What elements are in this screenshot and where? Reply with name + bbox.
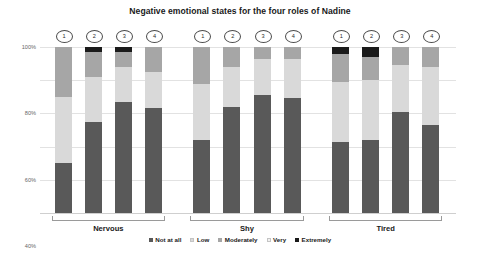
bar-segment-low — [193, 84, 210, 140]
bar-segment-not-at-all — [145, 108, 162, 213]
y-axis-tick-label: 60% — [25, 177, 36, 183]
bar-segment-low — [145, 72, 162, 109]
bar-nervous-1 — [55, 47, 72, 213]
bar-segment-low — [223, 67, 240, 107]
bar-tired-2 — [362, 47, 379, 213]
bar-shy-3 — [254, 47, 271, 213]
bar-segment-moderately — [284, 47, 301, 59]
legend-item-very[interactable]: Very — [267, 236, 287, 243]
legend-swatch-icon — [267, 238, 271, 242]
chart-legend: Not at allLowModeratelyVeryExtremely — [0, 236, 480, 243]
plot-area: 0%20%40%60%80%100% — [40, 47, 456, 213]
legend-label: Moderately — [225, 236, 258, 243]
role-badge-1: 1 — [56, 30, 73, 43]
bar-segment-low — [115, 67, 132, 102]
bar-segment-low — [332, 82, 349, 142]
role-badge-2: 2 — [224, 30, 241, 43]
bar-segment-not-at-all — [362, 140, 379, 213]
bar-segment-moderately — [145, 47, 162, 72]
bar-tired-4 — [422, 47, 439, 213]
bar-segment-not-at-all — [284, 98, 301, 213]
legend-label: Extremely — [302, 236, 332, 243]
group-label-shy: Shy — [190, 224, 304, 233]
bar-segment-not-at-all — [193, 140, 210, 213]
role-badge-3: 3 — [116, 30, 133, 43]
role-badge-1: 1 — [194, 30, 211, 43]
chart-title: Negative emotional states for the four r… — [0, 6, 480, 16]
group-label-tired: Tired — [329, 224, 443, 233]
bar-segment-not-at-all — [254, 95, 271, 213]
bar-nervous-4 — [145, 47, 162, 213]
legend-item-moderately[interactable]: Moderately — [218, 236, 257, 243]
bar-shy-4 — [284, 47, 301, 213]
legend-item-extremely[interactable]: Extremely — [295, 236, 331, 243]
role-badge-2: 2 — [363, 30, 380, 43]
bar-tired-1 — [332, 47, 349, 213]
bar-segment-not-at-all — [332, 142, 349, 213]
gridline-0: 0% — [40, 213, 456, 214]
legend-label: Not at all — [155, 236, 181, 243]
group-bracket-tired — [329, 216, 443, 221]
bar-nervous-2 — [85, 47, 102, 213]
bar-segment-low — [392, 65, 409, 111]
bar-segment-moderately — [223, 47, 240, 67]
bar-shy-1 — [193, 47, 210, 213]
bar-nervous-3 — [115, 47, 132, 213]
bar-segment-extremely — [85, 47, 102, 52]
legend-label: Low — [197, 236, 209, 243]
legend-label: Very — [273, 236, 286, 243]
bar-segment-not-at-all — [422, 125, 439, 213]
y-axis-tick-label: 80% — [25, 110, 36, 116]
legend-swatch-icon — [149, 238, 153, 242]
bar-shy-2 — [223, 47, 240, 213]
bar-segment-moderately — [332, 54, 349, 82]
legend-swatch-icon — [190, 238, 194, 242]
role-badge-1: 1 — [333, 30, 350, 43]
bar-segment-low — [422, 67, 439, 125]
bar-segment-not-at-all — [223, 107, 240, 213]
bar-segment-not-at-all — [115, 102, 132, 213]
bar-segment-moderately — [254, 47, 271, 59]
bar-segment-not-at-all — [392, 112, 409, 213]
role-badge-4: 4 — [285, 30, 302, 43]
bar-segment-not-at-all — [85, 122, 102, 213]
bar-segment-moderately — [193, 47, 210, 84]
bar-segment-moderately — [55, 47, 72, 97]
bar-segment-extremely — [115, 47, 132, 52]
bar-segment-low — [362, 80, 379, 140]
legend-swatch-icon — [218, 238, 222, 242]
group-label-nervous: Nervous — [52, 224, 166, 233]
legend-swatch-icon — [295, 238, 299, 242]
group-bracket-nervous — [52, 216, 166, 221]
bar-segment-moderately — [422, 47, 439, 67]
role-badge-4: 4 — [423, 30, 440, 43]
y-axis-tick-label: 100% — [22, 44, 36, 50]
bar-segment-low — [284, 59, 301, 99]
bar-segment-low — [254, 59, 271, 96]
legend-item-low[interactable]: Low — [190, 236, 209, 243]
bar-segment-moderately — [115, 52, 132, 67]
bar-segment-low — [55, 97, 72, 163]
role-badge-3: 3 — [255, 30, 272, 43]
group-bracket-shy — [190, 216, 304, 221]
bar-segment-moderately — [85, 52, 102, 77]
role-badge-4: 4 — [146, 30, 163, 43]
bar-tired-3 — [392, 47, 409, 213]
bar-segment-low — [85, 77, 102, 122]
stacked-bar-chart: Negative emotional states for the four r… — [0, 0, 480, 265]
y-axis-tick-label: 40% — [25, 243, 36, 249]
bars-layer — [40, 47, 456, 213]
bar-segment-moderately — [392, 47, 409, 65]
legend-item-not-at-all[interactable]: Not at all — [149, 236, 182, 243]
role-badge-2: 2 — [86, 30, 103, 43]
role-badge-3: 3 — [393, 30, 410, 43]
bar-segment-extremely — [332, 47, 349, 54]
bar-segment-not-at-all — [55, 163, 72, 213]
bar-segment-extremely — [362, 47, 379, 57]
bar-segment-moderately — [362, 57, 379, 80]
